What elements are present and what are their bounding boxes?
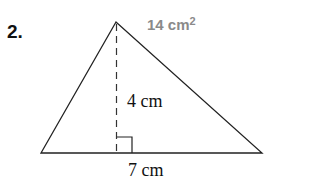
height-label: 4 cm bbox=[127, 92, 163, 110]
right-angle-marker bbox=[117, 137, 132, 153]
triangle-outline bbox=[41, 22, 262, 153]
base-label: 7 cm bbox=[128, 161, 164, 179]
